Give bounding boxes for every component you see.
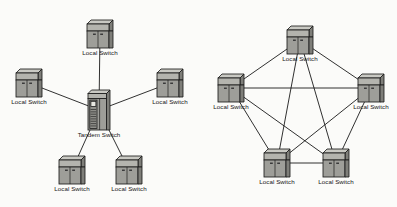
- local-switch-node: Local Switch: [152, 69, 188, 105]
- network-topology-figure: Local SwitchLocal SwitchLocal SwitchTand…: [0, 0, 397, 207]
- local-switch-node: Local Switch: [259, 149, 295, 185]
- local-switch-node: Local Switch: [54, 156, 90, 192]
- switch-label: Local Switch: [111, 185, 147, 192]
- switch-label: Local Switch: [11, 98, 47, 105]
- local-switch-node: Local Switch: [318, 149, 354, 185]
- switch-label: Local Switch: [54, 185, 90, 192]
- local-switch-node: Local Switch: [111, 156, 147, 192]
- tandem-switch-node: Tandem Switch: [78, 90, 121, 138]
- diagram-canvas: Local SwitchLocal SwitchLocal SwitchTand…: [0, 0, 397, 207]
- switch-label: Local Switch: [318, 178, 354, 185]
- local-switch-node: Local Switch: [11, 69, 47, 105]
- switch-label: Local Switch: [282, 55, 318, 62]
- switch-nodes-layer: Local SwitchLocal SwitchLocal SwitchTand…: [11, 20, 389, 192]
- switch-label: Local Switch: [353, 103, 389, 110]
- switch-label: Local Switch: [213, 103, 249, 110]
- local-switch-node: Local Switch: [213, 74, 249, 110]
- local-switch-node: Local Switch: [82, 20, 118, 56]
- switch-label: Local Switch: [259, 178, 295, 185]
- local-switch-node: Local Switch: [353, 74, 389, 110]
- switch-label: Local Switch: [152, 98, 188, 105]
- connection-lines-layer: [29, 34, 371, 170]
- switch-label: Tandem Switch: [78, 131, 121, 138]
- switch-label: Local Switch: [82, 49, 118, 56]
- local-switch-node: Local Switch: [282, 26, 318, 62]
